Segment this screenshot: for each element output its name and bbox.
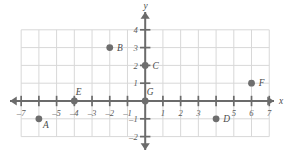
x-tick-label: –5 — [51, 108, 61, 118]
x-tick-label: –2 — [104, 108, 114, 118]
y-tick-label: 2 — [133, 61, 138, 71]
data-point-g — [142, 98, 149, 105]
x-tick-label: 2 — [178, 108, 183, 118]
coordinate-plane-figure: –7–5–4–3–2–11235674321–1–2 xy ABCDEFG — [0, 0, 291, 157]
x-tick-label: –7 — [16, 108, 26, 118]
graph-canvas: –7–5–4–3–2–11235674321–1–2 xy ABCDEFG — [0, 0, 291, 157]
x-tick-label: 1 — [161, 108, 165, 118]
data-point-f — [248, 80, 255, 87]
data-point-b — [106, 44, 113, 51]
x-tick-label: –4 — [69, 108, 79, 118]
y-tick-label: 1 — [133, 78, 137, 88]
y-tick-label: –1 — [128, 114, 138, 124]
y-tick-label: 3 — [132, 43, 137, 53]
point-label-e: E — [75, 87, 82, 97]
point-label-a: A — [42, 120, 49, 130]
x-tick-label: 6 — [249, 108, 254, 118]
point-label-b: B — [117, 43, 123, 53]
y-tick-label: –2 — [128, 132, 138, 142]
y-axis-label: y — [143, 1, 149, 11]
x-tick-label: 3 — [195, 108, 200, 118]
data-point-d — [213, 115, 220, 122]
data-point-e — [71, 98, 78, 105]
point-label-c: C — [152, 61, 159, 71]
x-tick-label: –3 — [87, 108, 97, 118]
point-label-d: D — [222, 114, 230, 124]
y-tick-label: 4 — [133, 25, 138, 35]
data-point-c — [142, 62, 149, 69]
x-axis-label: x — [278, 96, 284, 106]
x-tick-label: 5 — [232, 108, 237, 118]
point-label-g: G — [147, 87, 154, 97]
data-point-a — [35, 115, 42, 122]
point-label-f: F — [258, 78, 265, 88]
x-tick-label: 7 — [267, 108, 272, 118]
